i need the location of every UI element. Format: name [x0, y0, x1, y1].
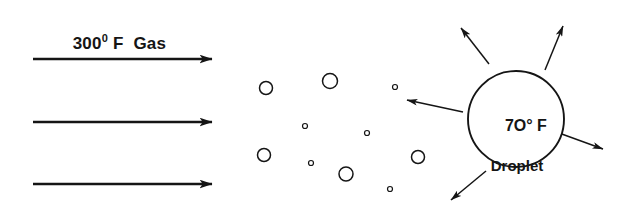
spray-droplet-6	[258, 149, 271, 162]
droplet-temperature-label: 7O° F	[505, 117, 547, 134]
droplet-label: 7O° F Droplet	[470, 96, 564, 211]
radiation-arrow-lower-right	[559, 133, 603, 149]
radiation-arrow-upper-left	[461, 28, 489, 64]
spray-droplet-9	[412, 151, 425, 164]
gas-temperature-label: 3000 F Gas	[53, 8, 166, 74]
radiation-arrow-upper-right	[545, 26, 563, 70]
spray-droplet-1	[260, 82, 273, 95]
spray-droplet-group	[258, 74, 425, 192]
spray-droplet-7	[309, 161, 314, 166]
spray-droplet-8	[339, 167, 353, 181]
spray-droplet-3	[393, 85, 398, 90]
gas-unit-f: F	[113, 34, 124, 53]
spray-droplet-2	[323, 74, 338, 89]
gas-medium-label: Gas	[133, 34, 166, 53]
spray-droplet-4	[303, 124, 308, 129]
spray-droplet-5	[365, 131, 370, 136]
gas-label-gap	[124, 34, 134, 53]
gas-temperature-value: 300	[73, 34, 102, 53]
spray-droplet-10	[388, 187, 393, 192]
radiation-arrow-left	[407, 100, 463, 112]
droplet-name-label: Droplet	[470, 156, 564, 176]
gas-flow-arrow-group	[33, 59, 212, 184]
droplet-heat-transfer-diagram: 3000 F Gas 7O° F Droplet	[0, 0, 633, 211]
